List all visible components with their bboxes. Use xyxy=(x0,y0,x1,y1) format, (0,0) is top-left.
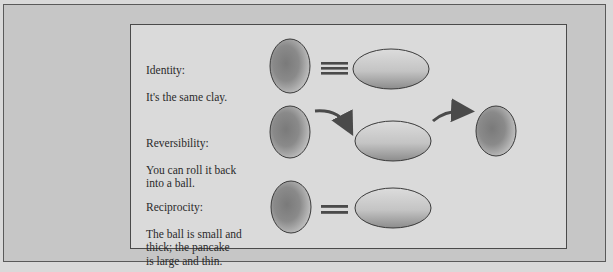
reversibility-row xyxy=(270,106,516,161)
arrow-right-icon xyxy=(433,111,466,121)
pancake-shape xyxy=(353,49,429,89)
identical-to-icon xyxy=(321,62,348,75)
identity-row xyxy=(270,39,429,93)
ball-shape xyxy=(270,39,310,93)
equals-icon xyxy=(321,205,348,214)
reciprocity-row xyxy=(271,181,431,233)
ball-shape xyxy=(476,106,516,156)
ball-shape xyxy=(271,181,311,233)
diagram-panel: Identity: It's the same clay. Reversibil… xyxy=(130,24,567,249)
pancake-shape xyxy=(355,121,431,161)
arrow-right-icon xyxy=(315,111,349,128)
pancake-shape xyxy=(355,188,431,228)
ball-shape xyxy=(270,106,310,158)
clay-diagram xyxy=(131,25,568,250)
